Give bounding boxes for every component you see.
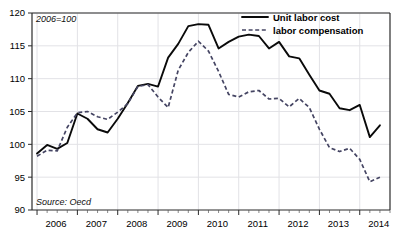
source-annotation: Source: Oecd	[36, 197, 92, 207]
x-axis-tick-label: 2011	[248, 218, 268, 229]
x-axis-tick-label: 2014	[368, 218, 389, 229]
x-axis-tick-label: 2008	[126, 218, 147, 229]
y-axis-tick-label: 100	[9, 139, 25, 150]
x-axis-tick-label: 2009	[166, 218, 187, 229]
y-axis-tick-label: 120	[9, 7, 25, 18]
y-axis-tick-label: 110	[10, 73, 25, 84]
line-chart: 9095100105110115120 20062007200820092010…	[0, 0, 394, 243]
x-axis-tick-label: 2013	[328, 218, 349, 229]
x-axis-tick-labels: 200620072008200920102011201220132014	[45, 218, 389, 229]
y-axis-tick-label: 105	[9, 106, 25, 117]
y-axis-tick-label: 90	[14, 204, 25, 215]
index-base-annotation: 2006=100	[35, 14, 76, 24]
legend-label-unit-labor-cost: Unit labor cost	[273, 12, 340, 23]
x-axis-tick-label: 2012	[288, 218, 309, 229]
y-axis-tick-label: 115	[10, 40, 25, 51]
x-axis-tick-label: 2010	[207, 218, 228, 229]
x-axis-tick-label: 2006	[45, 218, 66, 229]
legend-label-labor-compensation: labor compensation	[273, 25, 363, 36]
x-axis-tick-label: 2007	[86, 218, 107, 229]
y-axis-tick-label: 95	[14, 172, 25, 183]
